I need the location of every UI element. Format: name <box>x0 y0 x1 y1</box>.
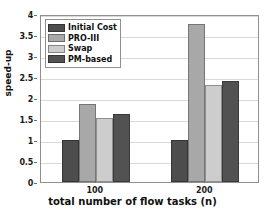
y-tick-label: 0.5 <box>19 158 33 167</box>
bar <box>96 118 113 182</box>
bar <box>113 114 130 182</box>
y-tick-mark <box>34 99 37 100</box>
y-tick-mark <box>34 57 37 58</box>
bar <box>62 140 79 182</box>
legend-label: PRO-III <box>68 34 99 43</box>
legend-swatch-icon <box>48 55 65 63</box>
y-tick-mark <box>34 15 37 16</box>
y-tick-mark <box>34 162 37 163</box>
x-tick-label: 200 <box>196 186 213 195</box>
y-tick-label: 0 <box>28 179 33 188</box>
plot-area: Initial CostPRO-IIISwapPM-based <box>40 15 259 183</box>
legend-item: PRO-III <box>48 33 117 43</box>
legend-item: Swap <box>48 44 117 54</box>
y-tick-mark <box>34 141 37 142</box>
y-tick-label: 1.5 <box>19 116 33 125</box>
legend-label: Swap <box>68 44 92 53</box>
chart-legend: Initial CostPRO-IIISwapPM-based <box>45 19 121 68</box>
y-tick-label: 3 <box>28 53 33 62</box>
y-tick-label: 3.5 <box>19 32 33 41</box>
bar <box>188 24 205 182</box>
y-tick-label: 2.5 <box>19 74 33 83</box>
legend-swatch-icon <box>48 24 65 32</box>
y-tick-mark <box>34 120 37 121</box>
x-tick-mark <box>204 180 205 183</box>
x-tick-label: 100 <box>86 186 103 195</box>
gridline <box>41 16 258 17</box>
y-tick-label: 2 <box>28 95 33 104</box>
y-tick-mark <box>34 183 37 184</box>
bar <box>171 140 188 182</box>
legend-label: PM-based <box>68 55 112 64</box>
y-tick-mark <box>34 78 37 79</box>
bar <box>222 81 239 182</box>
y-tick-label: 4 <box>28 11 33 20</box>
y-axis-title: speed-up <box>3 33 13 113</box>
legend-item: Initial Cost <box>48 23 117 33</box>
legend-item: PM-based <box>48 54 117 64</box>
legend-swatch-icon <box>48 45 65 53</box>
y-tick-label: 1 <box>28 137 33 146</box>
bar <box>79 104 96 182</box>
legend-swatch-icon <box>48 34 65 42</box>
x-axis-title: total number of flow tasks (n) <box>0 196 265 207</box>
bar <box>205 85 222 182</box>
legend-label: Initial Cost <box>68 23 117 32</box>
x-tick-mark <box>95 180 96 183</box>
bar-chart-figure: 00.511.522.533.54 speed-up Initial CostP… <box>0 0 265 221</box>
y-tick-mark <box>34 36 37 37</box>
